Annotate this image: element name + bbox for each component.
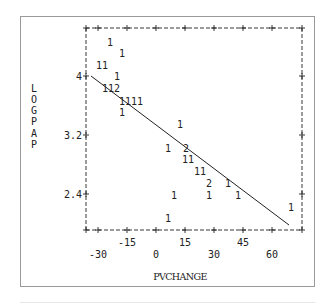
data-point: 11 <box>96 60 108 71</box>
data-point: 1 <box>171 190 177 201</box>
data-point: 11 <box>182 154 194 165</box>
x-tick-label: 45 <box>237 237 249 248</box>
x-tick-label: 0 <box>153 249 159 260</box>
axis-ticks <box>83 25 305 233</box>
scatter-plot: 111111121111111211112111111 43.22.4-1515… <box>0 0 328 305</box>
y-tick-label: 2.4 <box>64 189 82 200</box>
x-tick-label: -15 <box>118 237 136 248</box>
data-points: 111111121111111211112111111 <box>96 37 294 224</box>
data-point: 1111 <box>119 96 143 107</box>
data-point: 11 <box>194 166 206 177</box>
data-point: 2 <box>206 178 212 189</box>
data-point: 1 <box>119 48 125 59</box>
y-tick-label: 3.2 <box>64 130 82 141</box>
data-point: 1 <box>177 119 183 130</box>
data-point: 2 <box>183 143 189 154</box>
data-point: 1 <box>107 37 113 48</box>
axis-labels: 43.22.4-151545-3003060PVCHANGELOGPAP <box>31 71 278 282</box>
x-tick-label: -30 <box>89 249 107 260</box>
data-point: 1 <box>206 190 212 201</box>
data-point: 1 <box>165 143 171 154</box>
data-point: 112 <box>102 83 120 94</box>
data-point: 1 <box>288 202 294 213</box>
y-axis-title-letter: G <box>31 105 37 116</box>
x-axis-title: PVCHANGE <box>153 271 207 282</box>
data-point: 1 <box>225 178 231 189</box>
data-point: 1 <box>114 71 120 82</box>
y-axis-title-letter: A <box>31 128 37 139</box>
y-axis-title-letter: O <box>31 94 37 105</box>
x-tick-label: 15 <box>179 237 191 248</box>
data-point: 1 <box>235 190 241 201</box>
x-tick-label: 60 <box>266 249 278 260</box>
y-tick-label: 4 <box>76 71 82 82</box>
y-axis-title-letter: L <box>31 83 37 94</box>
y-axis-title-letter: P <box>31 116 37 127</box>
data-point: 1 <box>119 107 125 118</box>
x-tick-label: 30 <box>208 249 220 260</box>
y-axis-title-letter: P <box>31 139 37 150</box>
data-point: 1 <box>165 213 171 224</box>
